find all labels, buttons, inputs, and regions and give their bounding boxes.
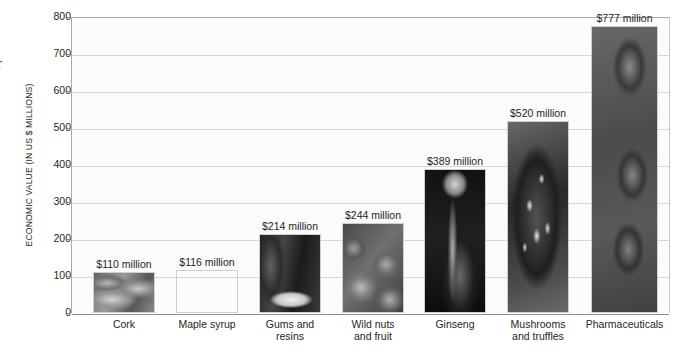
x-tick-label-line: and fruit (351, 330, 394, 342)
gridline (72, 166, 669, 167)
y-tick-label: 400 (35, 158, 71, 170)
x-tick-label-line: Wild nuts (351, 318, 394, 330)
photo-maple-syrup-image (177, 271, 237, 312)
bar[interactable] (93, 272, 155, 313)
x-tick-label-line: Cork (113, 318, 135, 330)
x-tick-label: Maple syrup (178, 318, 235, 330)
x-tick-label-line: resins (266, 330, 314, 342)
x-tick-label: Mushroomsand truffles (511, 318, 566, 342)
y-axis: ECONOMIC VALUE (IN US $ MILLIONS) 010020… (0, 0, 71, 359)
gridline (72, 203, 669, 204)
x-tick-label: Gums andresins (266, 318, 314, 342)
bar-group[interactable]: $110 millionCork (93, 272, 155, 313)
x-tick-label: Pharmaceuticals (586, 318, 664, 330)
bar[interactable] (424, 169, 486, 313)
x-tick-label: Cork (113, 318, 135, 330)
bar[interactable] (176, 270, 238, 313)
x-tick-label-line: Ginseng (435, 318, 474, 330)
y-tick-label: 100 (35, 269, 71, 281)
bar-group[interactable]: $389 millionGinseng (424, 169, 486, 313)
bar-value-label: $214 million (262, 220, 318, 234)
bar-group[interactable]: $116 millionMaple syrup (176, 270, 238, 313)
y-tick-mark (67, 313, 71, 314)
gridline (72, 129, 669, 130)
y-tick-label: 500 (35, 121, 71, 133)
y-tick-label: 300 (35, 195, 71, 207)
x-tick-label-line: Pharmaceuticals (586, 318, 664, 330)
x-tick-label-line: Gums and (266, 318, 314, 330)
plot-area: $110 millionCork$116 millionMaple syrup$… (71, 17, 670, 313)
bar-value-label: $777 million (596, 12, 652, 26)
gridline (72, 314, 669, 315)
bar-value-label: $520 million (510, 107, 566, 121)
photo-cork-image (94, 273, 154, 312)
bar[interactable] (342, 223, 404, 313)
x-tick-label-line: Maple syrup (178, 318, 235, 330)
photo-gums-resins-image (260, 235, 320, 312)
bar-group[interactable]: $244 millionWild nutsand fruit (342, 223, 404, 313)
bar[interactable] (591, 26, 658, 313)
photo-pharmaceuticals-image (592, 27, 657, 312)
photo-mushrooms-image (508, 122, 568, 312)
y-axis-title: ECONOMIC VALUE (IN US $ MILLIONS) (22, 17, 36, 313)
bar-value-label: $116 million (179, 256, 234, 270)
x-tick-label: Wild nutsand fruit (351, 318, 394, 342)
bar[interactable] (259, 234, 321, 313)
y-tick-label: 200 (35, 232, 71, 244)
x-tick-label-line: Mushrooms (511, 318, 566, 330)
bar-group[interactable]: $214 millionGums andresins (259, 234, 321, 313)
bar-chart: ECONOMIC VALUE (IN US $ MILLIONS) 010020… (0, 0, 689, 359)
x-tick-label-line: and truffles (511, 330, 566, 342)
y-tick-label: 600 (35, 84, 71, 96)
photo-ginseng-image (425, 170, 485, 312)
photo-wild-nuts-image (343, 224, 403, 312)
x-tick-label: Ginseng (435, 318, 474, 330)
bar-group[interactable]: $777 millionPharmaceuticals (591, 26, 658, 313)
bar-value-label: $244 million (345, 209, 401, 223)
gridline (72, 55, 669, 56)
y-tick-label: 800 (35, 10, 71, 22)
bar-value-label: $110 million (96, 258, 151, 272)
gridline (72, 92, 669, 93)
bar-value-label: $389 million (427, 155, 483, 169)
y-tick-label: 700 (35, 47, 71, 59)
y-tick-label: 0 (35, 306, 71, 318)
bar-group[interactable]: $520 millionMushroomsand truffles (507, 121, 569, 313)
bar[interactable] (507, 121, 569, 313)
